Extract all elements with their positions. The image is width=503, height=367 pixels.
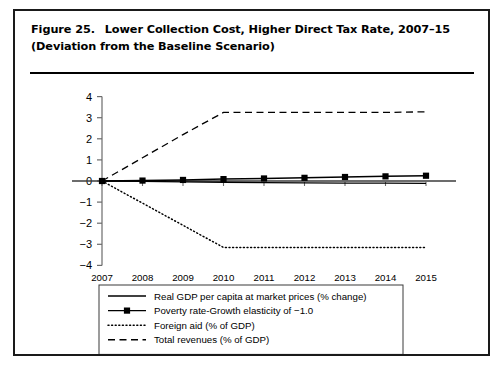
x-axis: 200720082009201020112012201320142015 [72, 181, 456, 283]
y-axis-tick-label: 3 [86, 112, 92, 124]
x-axis-tick-label: 2014 [375, 272, 397, 283]
data-point-marker [139, 177, 145, 183]
x-axis-tick-label: 2012 [294, 272, 316, 283]
data-series-group [99, 112, 429, 248]
y-axis-tick-label: 2 [86, 133, 92, 145]
page-title: Figure 25. Lower Collection Cost, Higher… [31, 22, 473, 55]
data-series-line [102, 181, 426, 247]
data-point-marker [261, 175, 267, 181]
data-series-line [102, 112, 426, 181]
x-axis-tick-label: 2013 [334, 272, 356, 283]
data-point-marker [423, 173, 429, 179]
legend-item-label: Total revenues (% of GDP) [154, 334, 269, 345]
x-axis-tick-label: 2011 [254, 272, 275, 283]
x-axis-tick-label: 2008 [132, 272, 154, 283]
x-axis-tick-label: 2009 [172, 272, 194, 283]
chart-legend: Real GDP per capita at market prices (% … [99, 285, 403, 354]
y-axis-tick-label: 1 [86, 154, 92, 166]
data-point-marker [180, 177, 186, 183]
data-point-marker [382, 173, 388, 179]
data-point-marker [220, 176, 226, 182]
x-axis-tick-label: 2007 [91, 272, 113, 283]
y-axis-tick-label: 4 [86, 91, 92, 103]
x-axis-tick-label: 2010 [213, 272, 235, 283]
legend-item-label: Foreign aid (% of GDP) [154, 320, 255, 331]
legend-item-label: Poverty rate-Growth elasticity of −1.0 [154, 305, 314, 316]
legend-swatch-marker [124, 308, 130, 314]
title-divider [30, 72, 474, 74]
chart-svg: 43210−1−2−3−4 20072008200920102011201220… [15, 77, 488, 354]
figure-number-label: Figure 25. [31, 23, 95, 36]
data-point-marker [301, 175, 307, 181]
data-point-marker [342, 174, 348, 180]
chart-canvas: 43210−1−2−3−4 20072008200920102011201220… [15, 77, 488, 354]
y-axis-tick-label: −2 [79, 217, 92, 229]
legend-item-label: Real GDP per capita at market prices (% … [154, 291, 367, 302]
figure-frame: Figure 25. Lower Collection Cost, Higher… [13, 9, 490, 356]
y-axis-tick-label: −3 [79, 238, 92, 250]
y-axis-tick-label: −1 [79, 196, 92, 208]
y-axis-tick-label: −4 [79, 259, 92, 271]
x-axis-tick-label: 2015 [415, 272, 437, 283]
